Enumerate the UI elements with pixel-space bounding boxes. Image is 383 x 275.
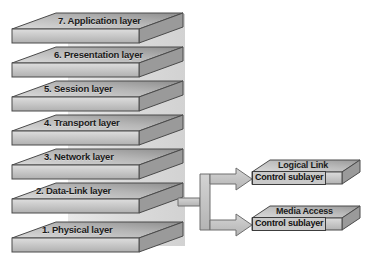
layer-slab[interactable]: 3. Network layer <box>12 147 184 183</box>
layer-slab[interactable]: 5. Session layer <box>12 79 184 115</box>
layer-slab[interactable]: 7. Application layer <box>12 11 184 47</box>
layer-label: 7. Application layer <box>58 15 141 26</box>
layer-label: 4. Transport layer <box>44 117 120 128</box>
layer-label: 2. Data-Link layer <box>36 185 111 196</box>
layer-label: 6. Presentation layer <box>54 49 143 60</box>
layer-label: 1. Physical layer <box>42 224 113 235</box>
layer-slab[interactable]: 4. Transport layer <box>12 113 184 149</box>
layer-slab[interactable]: 6. Presentation layer <box>12 45 184 81</box>
sublayer-block[interactable]: Logical Link Control sublayer <box>252 158 362 194</box>
sublayer-subtitle: Control sublayer <box>252 171 326 185</box>
sublayer-block[interactable]: Media Access Control sublayer <box>252 204 362 240</box>
sublayer-title: Media Access <box>276 206 333 216</box>
osi-model-diagram: 7. Application layer 6. Presentation lay… <box>0 0 383 275</box>
sublayer-subtitle: Control sublayer <box>252 217 326 231</box>
layer-label: 3. Network layer <box>44 151 114 162</box>
layer-slab[interactable]: 2. Data-Link layer <box>12 181 184 217</box>
layer-label: 5. Session layer <box>44 83 113 94</box>
sublayer-title: Logical Link <box>278 160 328 170</box>
layer-slab[interactable]: 1. Physical layer <box>12 220 184 256</box>
